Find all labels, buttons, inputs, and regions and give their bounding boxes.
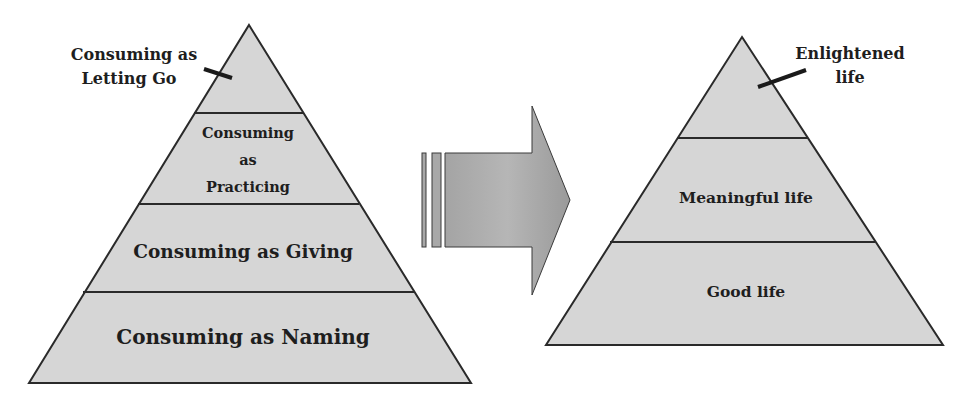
arrow-bar-medium [432,153,441,247]
left-callout-line1: Consuming as [71,45,197,64]
left-level-practicing-line3: Practicing [206,178,290,195]
left-level-practicing-line2: as [239,151,257,168]
transition-arrow [422,106,570,295]
left-level-practicing-line1: Consuming [202,124,294,141]
left-level-giving: Consuming as Giving [133,241,353,262]
right-callout-line1: Enlightened [795,44,904,63]
right-level-good: Good life [707,282,786,301]
arrow-body [445,106,570,295]
left-callout-line2: Letting Go [81,69,176,88]
diagram-canvas: Consuming as Letting Go Consuming as Pra… [0,0,975,407]
left-pyramid: Consuming as Letting Go Consuming as Pra… [29,25,471,383]
left-level-naming: Consuming as Naming [116,325,370,349]
right-pyramid: Enlightened life Meaningful life Good li… [546,37,943,345]
right-level-meaningful: Meaningful life [679,188,813,207]
right-callout-line2: life [835,68,864,87]
arrow-bar-thin [422,153,426,247]
